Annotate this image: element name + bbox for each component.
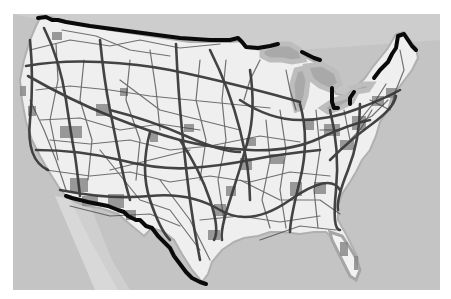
us-transport-map	[13, 14, 440, 290]
map-frame	[13, 14, 440, 290]
